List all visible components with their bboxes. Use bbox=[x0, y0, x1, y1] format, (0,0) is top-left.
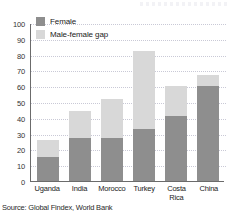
x-axis-tick-labels: UgandaIndiaMoroccoTurkeyCostaRicaChina bbox=[31, 184, 225, 202]
bar-segment-female bbox=[37, 157, 59, 181]
bar-segment-female bbox=[165, 116, 187, 181]
bar-uganda[interactable] bbox=[37, 24, 59, 181]
y-tick-100: 100 bbox=[13, 20, 25, 29]
legend-swatch-male-female-gap bbox=[36, 30, 45, 39]
plot-area bbox=[30, 24, 224, 182]
bar-india[interactable] bbox=[69, 24, 91, 181]
bar-segment-male-female-gap bbox=[37, 140, 59, 157]
y-tick-0: 0 bbox=[21, 178, 25, 187]
x-tick-india: India bbox=[64, 184, 94, 202]
y-tick-20: 20 bbox=[17, 146, 25, 155]
y-tick-10: 10 bbox=[17, 162, 25, 171]
legend-label-male-female-gap: Male-female gap bbox=[50, 30, 108, 39]
y-axis-tick-labels: 0102030405060708090100 bbox=[0, 24, 28, 182]
legend-item-female: Female bbox=[36, 17, 108, 26]
bar-turkey[interactable] bbox=[133, 24, 155, 181]
y-tick-70: 70 bbox=[17, 67, 25, 76]
y-tick-50: 50 bbox=[17, 99, 25, 108]
x-tick-turkey: Turkey bbox=[129, 184, 159, 202]
bar-group bbox=[32, 24, 224, 181]
y-tick-30: 30 bbox=[17, 130, 25, 139]
legend-item-male-female-gap: Male-female gap bbox=[36, 30, 108, 39]
bar-segment-male-female-gap bbox=[69, 111, 91, 138]
source-note: Source: Global Findex, World Bank bbox=[2, 203, 112, 212]
legend-label-female: Female bbox=[50, 17, 76, 26]
y-tick-80: 80 bbox=[17, 51, 25, 60]
bar-segment-female bbox=[69, 138, 91, 181]
bar-segment-male-female-gap bbox=[101, 99, 123, 139]
bar-segment-female bbox=[197, 86, 219, 181]
bar-segment-male-female-gap bbox=[197, 75, 219, 86]
x-tick-costa-rica: CostaRica bbox=[161, 184, 191, 202]
bar-costa-rica[interactable] bbox=[165, 24, 187, 181]
bar-segment-male-female-gap bbox=[165, 86, 187, 116]
top-edge-artifact bbox=[140, 2, 228, 6]
bar-segment-female bbox=[101, 138, 123, 181]
legend-swatch-female bbox=[36, 17, 45, 26]
chart-legend: Female Male-female gap bbox=[36, 17, 108, 39]
bar-morocco[interactable] bbox=[101, 24, 123, 181]
bar-china[interactable] bbox=[197, 24, 219, 181]
chart-container: 0102030405060708090100 UgandaIndiaMorocc… bbox=[0, 0, 230, 216]
y-tick-60: 60 bbox=[17, 83, 25, 92]
x-tick-uganda: Uganda bbox=[32, 184, 62, 202]
bar-segment-female bbox=[133, 129, 155, 181]
x-tick-morocco: Morocco bbox=[97, 184, 127, 202]
bar-segment-male-female-gap bbox=[133, 51, 155, 128]
y-tick-90: 90 bbox=[17, 35, 25, 44]
y-tick-40: 40 bbox=[17, 114, 25, 123]
x-tick-china: China bbox=[194, 184, 224, 202]
